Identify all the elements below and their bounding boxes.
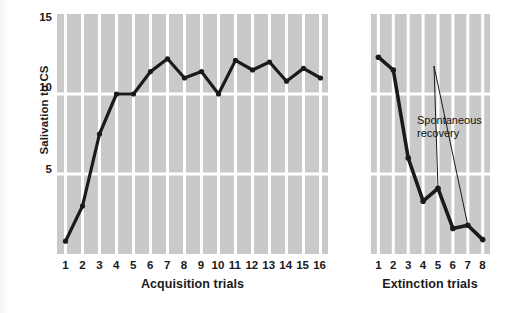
x-tick-ext-3: 3 xyxy=(401,257,416,273)
x-tick-acq-16: 16 xyxy=(311,257,328,273)
x-tick-acq-10: 10 xyxy=(209,257,226,273)
x-tick-acq-12: 12 xyxy=(243,257,260,273)
x-tick-acq-1: 1 xyxy=(57,257,74,273)
y-axis-tick-group: 15 10 5 xyxy=(24,0,52,313)
x-tick-ext-6: 6 xyxy=(445,257,460,273)
y-tick-5: 5 xyxy=(26,164,52,176)
x-tick-acq-14: 14 xyxy=(277,257,294,273)
x-tick-acq-8: 8 xyxy=(176,257,193,273)
spontaneous-recovery-annotation: Spontaneous recovery xyxy=(417,114,509,140)
x-tick-ext-7: 7 xyxy=(460,257,475,273)
x-tick-acq-9: 9 xyxy=(193,257,210,273)
acquisition-plot-svg xyxy=(57,14,328,254)
x-tick-ext-5: 5 xyxy=(431,257,446,273)
acquisition-data-line xyxy=(66,59,321,241)
x-tick-ext-4: 4 xyxy=(416,257,431,273)
x-tick-ext-8: 8 xyxy=(475,257,490,273)
x-tick-acq-5: 5 xyxy=(125,257,142,273)
x-tick-acq-3: 3 xyxy=(91,257,108,273)
x-axis-title-extinction: Extinction trials xyxy=(360,277,500,291)
vertical-gridlines xyxy=(66,14,321,254)
x-tick-ext-1: 1 xyxy=(371,257,386,273)
x-tick-acq-13: 13 xyxy=(260,257,277,273)
y-tick-10: 10 xyxy=(26,82,52,94)
x-tick-acq-4: 4 xyxy=(108,257,125,273)
scan-edge-artifact xyxy=(0,0,8,313)
x-tick-acq-7: 7 xyxy=(159,257,176,273)
x-tick-acq-15: 15 xyxy=(294,257,311,273)
x-axis-title-acquisition: Acquisition trials xyxy=(57,277,328,291)
x-tick-acq-6: 6 xyxy=(142,257,159,273)
x-axis-tick-labels-acquisition: 1 2 3 4 5 6 7 8 9 10 11 12 13 14 15 16 xyxy=(57,257,328,273)
x-tick-acq-2: 2 xyxy=(74,257,91,273)
y-tick-15: 15 xyxy=(26,12,52,24)
x-tick-acq-11: 11 xyxy=(226,257,243,273)
acquisition-data-points xyxy=(63,56,323,244)
x-axis-tick-labels-extinction: 1 2 3 4 5 6 7 8 xyxy=(371,257,490,273)
plot-area-acquisition xyxy=(57,14,328,254)
x-tick-ext-2: 2 xyxy=(386,257,401,273)
